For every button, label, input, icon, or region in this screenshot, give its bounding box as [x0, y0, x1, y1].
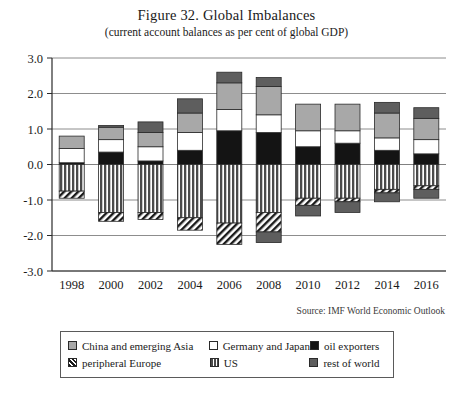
y-axis-tick-label: 3.0	[27, 52, 43, 66]
legend-label-germany-japan: Germany and Japan	[223, 340, 310, 352]
bar-segment-china	[414, 118, 439, 139]
bar-segment-oil_exporters	[296, 147, 321, 165]
bar-segment-oil_exporters	[335, 143, 360, 164]
bar-segment-germany_japan	[296, 131, 321, 147]
y-axis-tick-label: -2.0	[23, 229, 43, 243]
bar-segment-peripheral_europe	[256, 212, 281, 232]
x-axis-tick-label: 2000	[99, 278, 124, 292]
legend-swatch-germany-japan	[209, 341, 218, 350]
bar-segment-germany_japan	[414, 140, 439, 154]
bar-segment-rest_of_world	[217, 72, 242, 83]
bar-segment-us	[177, 165, 202, 218]
y-axis-tick-label: -3.0	[23, 265, 43, 279]
legend-item-germany-japan[interactable]: Germany and Japan	[209, 340, 310, 352]
y-axis-tick-labels: 3.02.01.00.0-1.0-2.0-3.0	[23, 52, 43, 279]
bar-segment-germany_japan	[374, 138, 399, 150]
bar-segment-us	[335, 165, 360, 199]
legend-label-china: China and emerging Asia	[82, 340, 193, 352]
bar-segment-peripheral_europe	[99, 212, 124, 221]
y-axis-tick-label: 1.0	[27, 123, 43, 137]
legend-label-rest-of-world: rest of world	[323, 357, 379, 369]
bar-segment-rest_of_world	[256, 78, 281, 87]
legend-label-oil-exporters: oil exporters	[324, 340, 379, 352]
bar-segment-peripheral_europe	[414, 186, 439, 190]
x-axis-tick-label: 2012	[335, 278, 360, 292]
figure-subtitle: (current account balances as per cent of…	[0, 25, 453, 39]
bar-segment-china	[177, 113, 202, 133]
source-note: Source: IMF World Economic Outlook	[297, 306, 445, 316]
bar-segment-germany_japan	[256, 115, 281, 133]
legend-swatch-us	[210, 358, 219, 367]
bar-segment-oil_exporters	[256, 133, 281, 165]
bar-segment-us	[59, 165, 84, 192]
bar-segment-germany_japan	[177, 133, 202, 151]
x-axis-tick-label: 1998	[59, 278, 84, 292]
bar-segment-china	[335, 104, 360, 131]
legend-swatch-china	[68, 341, 77, 350]
bars-group	[59, 72, 439, 244]
bar-segment-us	[138, 165, 163, 213]
y-axis-tick-label: 0.0	[27, 158, 43, 172]
bar-group-2010	[296, 104, 321, 216]
bar-segment-china	[59, 136, 84, 148]
bar-segment-rest_of_world	[414, 108, 439, 119]
bar-segment-rest_of_world	[177, 99, 202, 113]
bar-segment-us	[296, 165, 321, 199]
bar-segment-china	[99, 127, 124, 139]
bar-segment-china	[217, 83, 242, 110]
bar-segment-us	[414, 165, 439, 186]
bar-group-2008	[256, 78, 281, 243]
title-block: Figure 32. Global Imbalances (current ac…	[0, 0, 453, 40]
bar-group-2016	[414, 108, 439, 199]
bar-segment-china	[374, 113, 399, 138]
stacked-bar-chart: 3.02.01.00.0-1.0-2.0-3.0 199820002002200…	[0, 42, 453, 302]
x-axis-tick-label: 2002	[138, 278, 163, 292]
bar-segment-peripheral_europe	[59, 191, 84, 198]
bar-segment-oil_exporters	[217, 131, 242, 165]
bar-segment-rest_of_world	[99, 125, 124, 127]
legend-item-china[interactable]: China and emerging Asia	[68, 340, 209, 352]
bar-segment-peripheral_europe	[335, 198, 360, 202]
x-axis-tick-label: 2014	[374, 278, 400, 292]
bar-segment-germany_japan	[217, 109, 242, 130]
y-axis-tick-label: -1.0	[23, 194, 43, 208]
legend-label-us: US	[224, 357, 238, 369]
legend-item-rest-of-world[interactable]: rest of world	[309, 357, 386, 369]
bar-segment-germany_japan	[99, 140, 124, 152]
x-axis-tick-label: 2006	[217, 278, 242, 292]
legend-row: peripheral Europe US rest of world	[68, 354, 386, 371]
bar-segment-us	[217, 165, 242, 224]
bar-segment-oil_exporters	[177, 150, 202, 164]
bar-segment-peripheral_europe	[296, 198, 321, 205]
bar-segment-us	[99, 165, 124, 213]
bar-segment-germany_japan	[59, 149, 84, 163]
legend-swatch-peripheral-europe	[68, 358, 77, 367]
bar-segment-germany_japan	[335, 131, 360, 143]
bar-segment-rest_of_world	[374, 102, 399, 113]
bar-group-2014	[374, 102, 399, 201]
legend-item-peripheral-europe[interactable]: peripheral Europe	[68, 357, 210, 369]
x-axis-tick-label: 2008	[256, 278, 281, 292]
bar-group-2002	[138, 122, 163, 220]
bar-segment-oil_exporters	[374, 150, 399, 164]
bar-group-2000	[99, 125, 124, 221]
figure-root: Figure 32. Global Imbalances (current ac…	[0, 0, 453, 393]
bar-segment-us	[374, 165, 399, 190]
bar-segment-germany_japan	[138, 147, 163, 161]
chart-legend: China and emerging Asia Germany and Japa…	[60, 331, 394, 378]
bar-segment-us	[256, 165, 281, 213]
bar-segment-peripheral_europe	[138, 212, 163, 219]
x-axis-tick-label: 2010	[296, 278, 321, 292]
bar-segment-china	[256, 86, 281, 114]
chart-plot-area: 3.02.01.00.0-1.0-2.0-3.0 199820002002200…	[0, 42, 453, 302]
page-title: Figure 32. Global Imbalances	[0, 6, 453, 24]
bar-segment-oil_exporters	[414, 154, 439, 165]
legend-item-us[interactable]: US	[210, 357, 310, 369]
bar-segment-oil_exporters	[99, 152, 124, 164]
bar-segment-oil_exporters	[138, 161, 163, 165]
legend-item-oil-exporters[interactable]: oil exporters	[310, 340, 386, 352]
x-axis-tick-label: 2004	[177, 278, 203, 292]
legend-swatch-oil-exporters	[310, 341, 319, 350]
legend-row: China and emerging Asia Germany and Japa…	[68, 337, 386, 354]
x-axis-tick-label: 2016	[414, 278, 439, 292]
